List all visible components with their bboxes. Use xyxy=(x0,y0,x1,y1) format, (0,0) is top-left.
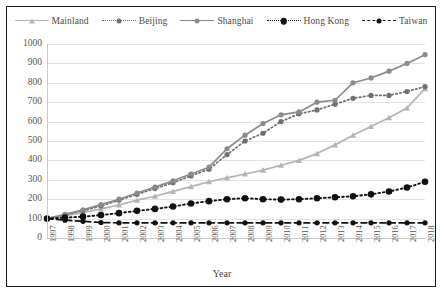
x-axis-tick-label: 2011 xyxy=(302,226,310,242)
data-point xyxy=(260,131,265,136)
legend-label: Shanghai xyxy=(217,16,253,26)
x-axis-tick-label: 2001 xyxy=(122,225,130,242)
data-point xyxy=(332,98,337,103)
series-mainland xyxy=(44,86,428,222)
data-point xyxy=(278,196,285,203)
data-point xyxy=(296,109,301,114)
data-point xyxy=(296,220,301,225)
legend-marker xyxy=(116,19,121,24)
chart-figure: MainlandBeijingShanghaiHong KongTaiwan 1… xyxy=(0,0,444,302)
chart-legend: MainlandBeijingShanghaiHong KongTaiwan xyxy=(6,8,436,34)
data-point xyxy=(134,190,139,195)
data-point xyxy=(278,119,283,124)
legend-symbol xyxy=(180,16,214,26)
x-axis-tick-label: 2012 xyxy=(320,225,328,242)
data-point xyxy=(116,210,123,217)
data-point xyxy=(188,171,193,176)
data-point xyxy=(206,165,211,170)
data-point xyxy=(188,200,195,207)
y-axis-tick-label: 700 xyxy=(8,97,42,107)
legend-symbol xyxy=(267,16,301,26)
x-axis-tick-label: 2018 xyxy=(428,225,436,242)
x-axis-tick-label: 2009 xyxy=(266,225,274,242)
data-point xyxy=(98,212,105,219)
x-axis-tick-label: 2014 xyxy=(356,225,364,242)
data-point xyxy=(350,193,357,200)
data-point xyxy=(224,146,229,151)
x-axis-tick-label: 2007 xyxy=(230,225,238,242)
legend-item-beijing[interactable]: Beijing xyxy=(102,16,168,26)
data-point xyxy=(422,178,429,185)
figure-caption xyxy=(8,292,436,301)
data-point xyxy=(260,196,267,203)
data-point xyxy=(386,188,393,195)
y-axis-tick-label: 800 xyxy=(8,78,42,88)
legend-item-shanghai[interactable]: Shanghai xyxy=(180,16,253,26)
series-hong-kong xyxy=(44,178,429,221)
y-axis-tick-label: 400 xyxy=(8,155,42,165)
x-axis-tick-label: 2000 xyxy=(104,225,112,242)
legend-item-taiwan[interactable]: Taiwan xyxy=(362,16,427,26)
data-point xyxy=(296,196,303,203)
data-point xyxy=(386,69,391,74)
data-point xyxy=(404,184,411,191)
data-point xyxy=(386,93,391,98)
data-point xyxy=(80,219,85,224)
data-point xyxy=(242,195,249,202)
data-point xyxy=(404,61,409,66)
y-axis-tick-label: 100 xyxy=(8,214,42,224)
data-point xyxy=(422,52,427,57)
legend-item-mainland[interactable]: Mainland xyxy=(15,16,89,26)
data-point xyxy=(422,84,427,89)
data-point xyxy=(350,80,355,85)
x-axis-tick-label: 2004 xyxy=(176,225,184,242)
data-point xyxy=(224,196,231,203)
x-axis-tick-label: 2003 xyxy=(158,225,166,242)
series-beijing xyxy=(44,84,427,221)
data-point xyxy=(224,152,229,157)
x-axis-tick-label: 1999 xyxy=(86,225,94,242)
data-point xyxy=(152,206,159,213)
series-lines xyxy=(47,44,425,238)
data-point xyxy=(170,178,175,183)
data-point xyxy=(116,197,121,202)
y-axis-tick-label: 1000 xyxy=(8,39,42,49)
legend-label: Taiwan xyxy=(399,16,427,26)
data-point xyxy=(350,96,355,101)
x-axis-tick-label: 2017 xyxy=(410,225,418,242)
data-point xyxy=(314,195,321,202)
data-point xyxy=(368,191,375,198)
data-point xyxy=(242,133,247,138)
y-axis-tick-label: 0 xyxy=(8,233,42,243)
x-axis-tick-label: 2016 xyxy=(392,225,400,242)
data-point xyxy=(314,100,319,105)
x-axis-tick-label: 2008 xyxy=(248,225,256,242)
data-point xyxy=(242,138,247,143)
data-point xyxy=(404,89,409,94)
x-axis-tick-label: 1998 xyxy=(68,225,76,242)
data-point xyxy=(98,202,103,207)
data-point xyxy=(80,207,85,212)
x-axis-tick-label: 2015 xyxy=(374,225,382,242)
y-axis-tick-label: 200 xyxy=(8,194,42,204)
data-point xyxy=(206,198,213,205)
data-point xyxy=(152,185,157,190)
legend-symbol xyxy=(362,16,396,26)
legend-marker xyxy=(280,18,287,25)
legend-marker xyxy=(29,19,35,24)
legend-marker xyxy=(377,19,382,24)
data-point xyxy=(368,93,373,98)
x-axis-tick-label: 2002 xyxy=(140,225,148,242)
y-axis-tick-label: 900 xyxy=(8,58,42,68)
legend-label: Beijing xyxy=(139,16,168,26)
y-axis-tick-label: 300 xyxy=(8,175,42,185)
data-point xyxy=(332,194,339,201)
legend-label: Hong Kong xyxy=(304,16,350,26)
x-axis-tick-label: 2013 xyxy=(338,225,346,242)
legend-symbol xyxy=(102,16,136,26)
y-axis-tick-label: 500 xyxy=(8,136,42,146)
y-axis-line xyxy=(47,44,48,239)
x-axis-tick-label: 1997 xyxy=(50,225,58,242)
legend-item-hong-kong[interactable]: Hong Kong xyxy=(267,16,350,26)
y-axis-tick-label: 600 xyxy=(8,117,42,127)
